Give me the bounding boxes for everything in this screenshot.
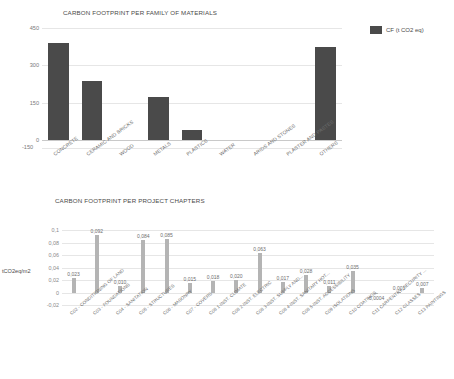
materials-gridline xyxy=(42,28,342,29)
materials-bar xyxy=(148,97,169,140)
materials-bar xyxy=(48,43,69,140)
materials-gridline xyxy=(42,65,342,66)
chapters-gridline xyxy=(62,268,434,269)
materials-y-tick: 150 xyxy=(30,100,39,106)
materials-y-tick: 0 xyxy=(36,137,39,143)
chapters-chart: CARBON FOOTPRINT PER PROJECT CHAPTERS 0,… xyxy=(0,192,454,379)
chapters-gridline xyxy=(62,230,434,231)
chapters-bar-value: 0,023 xyxy=(67,271,80,277)
chapters-bar xyxy=(141,240,145,293)
chapters-bar-value: 0,020 xyxy=(230,273,243,279)
materials-plot-area: 4503001500 xyxy=(42,28,342,140)
chapters-chart-title: CARBON FOOTPRINT PER PROJECT CHAPTERS xyxy=(55,197,205,204)
chapters-bar-value: 0,028 xyxy=(300,268,313,274)
chapters-y-tick: -0,02 xyxy=(47,302,59,308)
chapters-bar xyxy=(420,288,424,292)
chapters-y-tick: 0,08 xyxy=(49,240,60,246)
chapters-bar-value: 0,035 xyxy=(346,264,359,270)
legend-swatch-cf xyxy=(370,26,382,34)
materials-chart-title: CARBON FOOTPRINT PER FAMILY OF MATERIALS xyxy=(63,9,217,16)
chapters-gridline xyxy=(62,255,434,256)
materials-x-tick: WOOD xyxy=(118,142,135,157)
chapters-bar xyxy=(165,239,169,292)
chapters-y-tick: 0,02 xyxy=(49,277,60,283)
materials-bar xyxy=(182,130,203,140)
chapters-bar xyxy=(211,281,215,292)
chapters-bar xyxy=(72,278,76,292)
chapters-bar-value: 0,017 xyxy=(277,275,290,281)
chapters-y-tick: 0,1 xyxy=(52,227,60,233)
chapters-y-tick: 0,06 xyxy=(49,252,60,258)
chapters-bar-value: 0,084 xyxy=(137,233,150,239)
chapters-bar xyxy=(95,235,99,293)
chapters-gridline xyxy=(62,243,434,244)
materials-bar xyxy=(82,81,103,140)
chapters-y-tick: 0 xyxy=(56,290,59,296)
chapters-bar-value: 0,085 xyxy=(160,232,173,238)
materials-y-tick: 300 xyxy=(30,62,39,68)
chapters-y-tick: 0,04 xyxy=(49,265,60,271)
chapters-bar-value: 0,015 xyxy=(184,276,197,282)
materials-x-tick: WATER xyxy=(218,141,236,156)
chapters-bar-value: 0,092 xyxy=(91,228,104,234)
materials-y-tick: 450 xyxy=(30,25,39,31)
chapters-bar-value: 0,063 xyxy=(253,246,266,252)
chapters-y-axis-label: tCO2eq/m2 xyxy=(2,268,31,274)
chapters-bar-value: 0,007 xyxy=(416,281,429,287)
chapters-bar-value: 0,018 xyxy=(207,274,220,280)
materials-chart-legend: CF (t CO2 eq) xyxy=(370,26,424,34)
materials-y-tick-neg150: -150 xyxy=(22,144,33,150)
materials-chart: CARBON FOOTPRINT PER FAMILY OF MATERIALS… xyxy=(0,0,454,192)
materials-zero-axis xyxy=(42,140,342,141)
legend-label-cf: CF (t CO2 eq) xyxy=(386,27,424,33)
